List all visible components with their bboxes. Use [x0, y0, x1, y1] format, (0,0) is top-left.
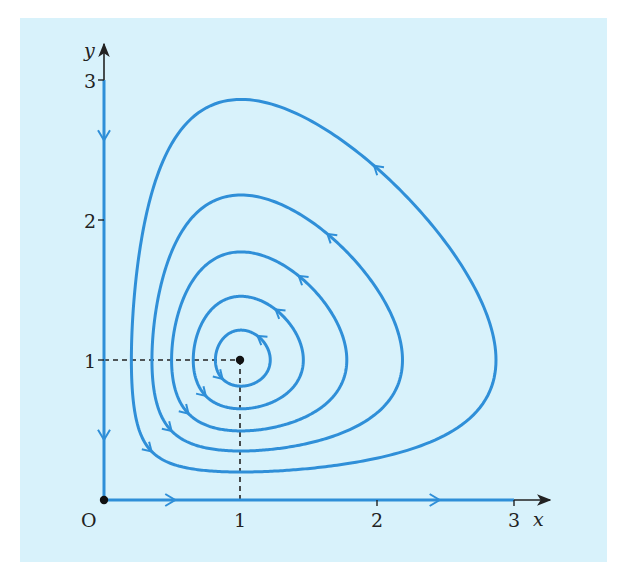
x-tick-label-3: 3	[508, 509, 520, 531]
x-axis-label: x	[533, 508, 544, 530]
phase-portrait-chart: 3 2 1 1 2 3 O y x	[0, 0, 629, 579]
x-tick-label-2: 2	[371, 509, 383, 531]
equilibrium-point-origin	[100, 496, 108, 504]
origin-label: O	[81, 509, 97, 531]
equilibrium-point-center	[236, 356, 244, 364]
y-tick-label-2: 2	[84, 210, 96, 232]
orbit-curve-2	[193, 296, 303, 409]
orbit-curve-5	[131, 99, 496, 472]
y-tick-label-1: 1	[84, 350, 96, 372]
y-tick-label-3: 3	[84, 70, 96, 92]
y-axis-label: y	[83, 39, 95, 61]
orbit-group	[131, 99, 496, 472]
x-tick-label-1: 1	[234, 509, 246, 531]
